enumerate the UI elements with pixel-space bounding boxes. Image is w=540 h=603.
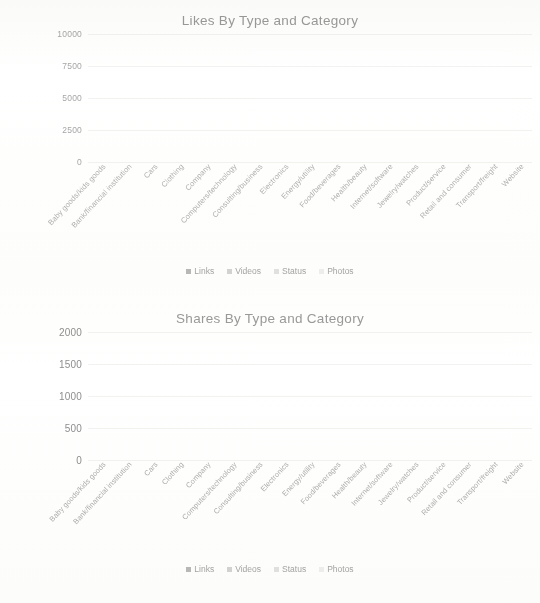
legend-swatch-icon [227,269,232,274]
plot-wrap-shares: 2000150010005000 [0,332,540,460]
legend-label: Photos [327,564,353,574]
x-axis-category-label: Consulting/business [211,460,264,516]
legend-label: Links [194,266,214,276]
x-axis-category-label: Website [500,460,525,486]
gridline [88,34,532,35]
legend-label: Photos [327,266,353,276]
plot-area-likes [88,34,532,162]
legend-item-photos[interactable]: Photos [319,266,353,276]
legend-item-videos[interactable]: Videos [227,266,261,276]
legend-label: Links [194,564,214,574]
legend-swatch-icon [274,567,279,572]
legend-item-links[interactable]: Links [186,564,214,574]
x-axis-category-label: Website [500,162,526,189]
y-axis-tick-label: 2500 [62,125,82,135]
chart-shares-by-type-and-category: Shares By Type and Category 200015001000… [0,300,540,603]
gridline [88,428,532,429]
legend-shares: LinksVideosStatusPhotos [0,564,540,574]
y-axis-tick-label: 10000 [57,29,82,39]
legend-swatch-icon [274,269,279,274]
y-axis-shares: 2000150010005000 [0,332,88,460]
legend-swatch-icon [227,567,232,572]
gridline [88,364,532,365]
legend-label: Status [282,266,306,276]
legend-swatch-icon [186,567,191,572]
x-axis-category-label: Clothing [160,460,186,487]
legend-item-videos[interactable]: Videos [227,564,261,574]
legend-swatch-icon [319,269,324,274]
legend-swatch-icon [319,567,324,572]
y-axis-likes: 100007500500025000 [0,34,88,162]
chart-title-likes: Likes By Type and Category [0,0,540,28]
legend-item-photos[interactable]: Photos [319,564,353,574]
y-axis-tick-label: 2000 [59,327,82,338]
y-axis-tick-label: 0 [77,157,82,167]
legend-item-links[interactable]: Links [186,266,214,276]
plot-wrap-likes: 100007500500025000 [0,34,540,162]
legend-item-status[interactable]: Status [274,564,306,574]
y-axis-tick-label: 0 [76,455,82,466]
x-axis-labels-shares: Baby goods/kids goodsBank/financial inst… [88,460,532,560]
gridline [88,130,532,131]
legend-label: Videos [235,266,261,276]
chart-title-shares: Shares By Type and Category [0,300,540,326]
gridline [88,396,532,397]
y-axis-tick-label: 1000 [59,391,82,402]
legend-label: Videos [235,564,261,574]
x-axis-category-label: Cars [142,162,160,180]
gridline [88,98,532,99]
chart-likes-by-type-and-category: Likes By Type and Category 1000075005000… [0,0,540,300]
y-axis-tick-label: 5000 [62,93,82,103]
legend-likes: LinksVideosStatusPhotos [0,266,540,276]
plot-area-shares [88,332,532,460]
gridline [88,332,532,333]
y-axis-tick-label: 500 [65,423,82,434]
y-axis-tick-label: 7500 [62,61,82,71]
x-axis-category-label: Consulting/business [210,162,264,219]
legend-label: Status [282,564,306,574]
x-axis-category-label: Cars [142,460,160,478]
y-axis-tick-label: 1500 [59,359,82,370]
x-axis-category-label: Clothing [160,162,186,189]
x-axis-labels-likes: Baby goods/kids goodsBank/financial inst… [88,162,532,262]
legend-item-status[interactable]: Status [274,266,306,276]
legend-swatch-icon [186,269,191,274]
gridline [88,66,532,67]
